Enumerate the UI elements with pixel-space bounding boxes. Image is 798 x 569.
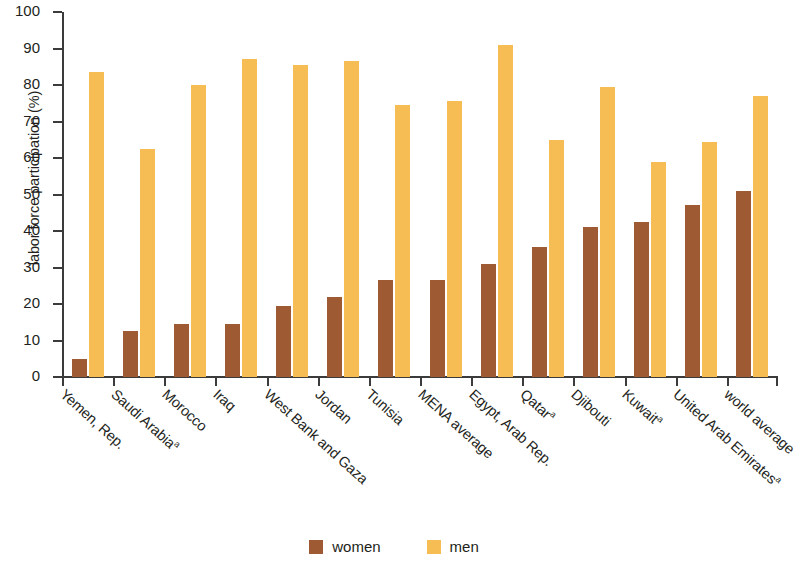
y-axis-tick: 10 (53, 340, 62, 342)
bar-women (634, 222, 649, 377)
bar-group (634, 12, 666, 377)
x-axis-tick (776, 377, 778, 386)
bar-women (123, 331, 138, 377)
y-axis-tick-label: 80 (23, 75, 40, 92)
legend-item-men: men (427, 538, 479, 555)
bar-women (583, 227, 598, 377)
bar-group (327, 12, 359, 377)
x-axis-label: Morocco (159, 386, 210, 434)
x-axis-label: Jordan (313, 386, 356, 427)
x-axis-label: Djibouti (568, 386, 613, 429)
y-axis-tick-label: 0 (32, 367, 40, 384)
bar-women (378, 280, 393, 377)
bar-men (549, 140, 564, 377)
bar-group (225, 12, 257, 377)
y-axis-tick: 80 (53, 84, 62, 86)
bar-women (736, 191, 751, 377)
bar-women (532, 247, 547, 377)
x-axis-tick (676, 377, 678, 386)
bar-group (532, 12, 564, 377)
y-axis-tick: 90 (53, 48, 62, 50)
legend-label: men (450, 538, 479, 555)
bar-men (498, 45, 513, 377)
y-axis-tick-label: 40 (23, 221, 40, 238)
bar-women (327, 297, 342, 377)
bar-men (191, 85, 206, 377)
x-axis-tick (471, 377, 473, 386)
x-axis-label: Tunisia (364, 386, 408, 428)
bar-group (481, 12, 513, 377)
legend-swatch-men (427, 540, 441, 554)
y-axis-tick-label: 70 (23, 112, 40, 129)
bar-women (72, 359, 87, 377)
y-axis-tick: 100 (53, 11, 62, 13)
y-axis-tick-label: 90 (23, 39, 40, 56)
x-axis-tick (420, 377, 422, 386)
x-axis-tick (573, 377, 575, 386)
bar-men (702, 142, 717, 377)
bar-group (430, 12, 462, 377)
y-axis-title: labor force participation (%) (26, 18, 42, 338)
bar-men (753, 96, 768, 377)
y-axis-tick: 70 (53, 121, 62, 123)
bar-men (293, 65, 308, 377)
x-axis-tick (318, 377, 320, 386)
bar-group (276, 12, 308, 377)
bar-women (276, 306, 291, 377)
x-axis-tick (522, 377, 524, 386)
bar-men (140, 149, 155, 377)
y-axis-tick: 30 (53, 267, 62, 269)
bar-group (378, 12, 410, 377)
bar-group (583, 12, 615, 377)
legend-item-women: women (309, 538, 380, 555)
bar-men (395, 105, 410, 377)
bar-women (225, 324, 240, 377)
x-axis-label: Qatara (517, 386, 557, 425)
bar-group (736, 12, 768, 377)
x-axis-tick (727, 377, 729, 386)
y-axis-tick: 40 (53, 230, 62, 232)
chart-legend: womenmen (0, 538, 788, 555)
bar-men (600, 87, 615, 377)
plot-area: 0102030405060708090100 (62, 12, 778, 377)
y-axis-tick: 0 (53, 376, 62, 378)
bar-men (447, 101, 462, 377)
bar-group (72, 12, 104, 377)
bar-men (651, 162, 666, 377)
y-axis-tick: 60 (53, 157, 62, 159)
y-axis-line (62, 12, 64, 378)
x-axis-tick (625, 377, 627, 386)
x-axis-tick (113, 377, 115, 386)
legend-label: women (332, 538, 380, 555)
x-axis-tick (215, 377, 217, 386)
bar-women (430, 280, 445, 377)
x-axis-label: Iraq (210, 386, 239, 414)
y-axis-tick-label: 60 (23, 148, 40, 165)
bar-men (242, 59, 257, 377)
y-axis-tick-label: 20 (23, 294, 40, 311)
y-axis-tick-label: 50 (23, 185, 40, 202)
legend-swatch-women (309, 540, 323, 554)
y-axis-tick: 20 (53, 303, 62, 305)
y-axis-tick-label: 100 (15, 2, 40, 19)
bar-men (89, 72, 104, 377)
y-axis-tick-label: 10 (23, 331, 40, 348)
x-axis-tick (369, 377, 371, 386)
y-axis-tick-label: 30 (23, 258, 40, 275)
x-axis-label: Kuwaita (619, 386, 665, 429)
x-axis-tick (62, 377, 64, 386)
x-axis-tick (267, 377, 269, 386)
bar-group (174, 12, 206, 377)
x-axis-tick (164, 377, 166, 386)
bar-group (685, 12, 717, 377)
x-axis-labels: Yemen, Rep.Saudi ArabiaaMoroccoIraqWest … (62, 386, 778, 526)
bar-women (481, 264, 496, 377)
bar-women (685, 205, 700, 377)
y-axis-tick: 50 (53, 194, 62, 196)
bar-group (123, 12, 155, 377)
bar-women (174, 324, 189, 377)
bar-men (344, 61, 359, 377)
